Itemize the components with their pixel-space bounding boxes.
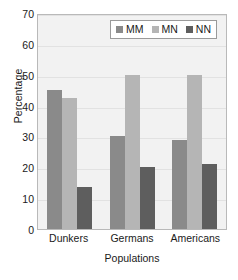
legend-label: NN <box>196 24 211 35</box>
y-axis-tick-label: 20 <box>22 162 34 174</box>
bar-group <box>101 15 164 229</box>
bar <box>47 90 62 229</box>
x-axis-tick-labels: DunkersGermansAmericans <box>37 232 227 244</box>
bar-group <box>163 15 226 229</box>
x-axis-title: Populations <box>37 252 227 264</box>
bar <box>110 136 125 229</box>
bar <box>77 187 92 229</box>
x-axis-tick-label: Dunkers <box>37 232 100 244</box>
y-axis-tick-label: 40 <box>22 101 34 113</box>
bar <box>202 164 217 229</box>
bar <box>140 167 155 229</box>
y-axis-tick-label: 10 <box>22 193 34 205</box>
legend-entry: MM <box>116 24 144 35</box>
y-axis-tick-label: 30 <box>22 131 34 143</box>
legend: MMMNNN <box>110 20 217 39</box>
y-axis-tick-label: 50 <box>22 70 34 82</box>
legend-entry: NN <box>186 24 211 35</box>
bar <box>125 75 140 229</box>
plot-area <box>37 14 227 230</box>
bar <box>172 140 187 229</box>
legend-label: MN <box>162 24 178 35</box>
y-axis-tick-labels: 010203040506070 <box>14 14 34 230</box>
y-axis-tick-label: 60 <box>22 39 34 51</box>
x-axis-tick-label: Americans <box>164 232 227 244</box>
bar-group <box>38 15 101 229</box>
legend-swatch-icon <box>152 26 159 33</box>
legend-entry: MN <box>152 24 178 35</box>
bars-layer <box>38 15 226 229</box>
bar-chart: Percentage 010203040506070 MMMNNN Dunker… <box>0 0 238 280</box>
y-axis-tick-label: 0 <box>28 224 34 236</box>
legend-swatch-icon <box>186 26 193 33</box>
x-axis-tick-label: Germans <box>100 232 163 244</box>
y-axis-tick-label: 70 <box>22 8 34 20</box>
legend-swatch-icon <box>116 26 123 33</box>
bar <box>62 98 77 229</box>
bar <box>187 75 202 229</box>
legend-label: MM <box>126 24 144 35</box>
